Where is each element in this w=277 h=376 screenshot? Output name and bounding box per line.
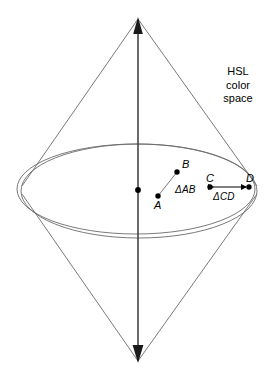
lower-cone-right-edge <box>138 194 257 361</box>
segment-cd-group <box>207 184 251 189</box>
annotation-line-1: HSL <box>206 65 270 79</box>
point-b-label: B <box>182 158 190 171</box>
annotation-line-3: space <box>206 92 270 106</box>
point-d-marker <box>246 184 251 189</box>
point-c-label: C <box>206 172 214 185</box>
hsl-color-space-figure: HSL color space A B C D ΔAB ΔCD <box>0 0 277 376</box>
point-d-label: D <box>246 172 254 185</box>
delta-ab-label: ΔAB <box>175 183 196 196</box>
center-point-marker <box>135 187 141 193</box>
axis-arrowhead-down-icon <box>133 345 144 363</box>
axis-arrowhead-up-icon <box>133 17 143 34</box>
point-a-label: A <box>154 199 162 212</box>
hsl-color-space-annotation: HSL color space <box>206 65 270 106</box>
upper-cone-left-edge <box>22 19 138 186</box>
annotation-line-2: color <box>206 79 270 93</box>
point-a-marker <box>155 193 160 198</box>
delta-cd-label: ΔCD <box>213 190 235 203</box>
point-c-marker <box>207 184 212 189</box>
point-b-marker <box>174 169 179 174</box>
bicone-diagram-svg <box>0 0 277 376</box>
lower-cone-left-edge <box>22 194 138 361</box>
